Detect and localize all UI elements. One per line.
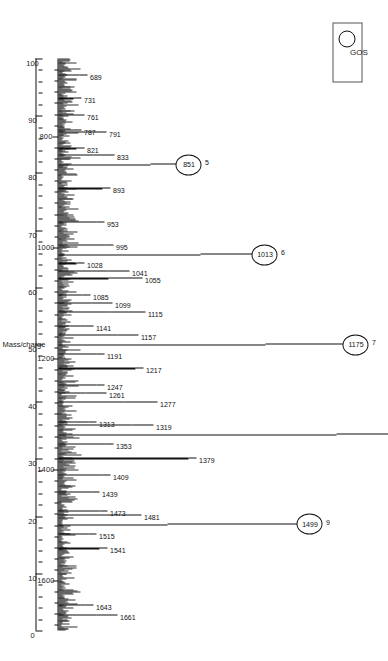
gos-mz-label: 1175 (343, 341, 369, 348)
spectrum-peak (58, 221, 97, 222)
annotation-leader-line (97, 614, 118, 615)
gos-dp-label: 9 (326, 518, 330, 525)
peak-label: 893 (113, 187, 125, 194)
rotated-plot-container: 8001000120014001600 Mass/charge 01020304… (0, 0, 388, 661)
spectrum-peak (58, 524, 168, 525)
circle-marker-icon (339, 30, 356, 47)
annotation-leader-line (88, 421, 96, 422)
spectrum-peak (58, 187, 102, 188)
peak-label: 1247 (107, 384, 123, 391)
annotation-leader-line (73, 97, 81, 98)
spectrum-peak (58, 147, 76, 148)
annotation-leader-line (132, 424, 153, 425)
peak-label: 1028 (86, 262, 102, 269)
annotation-leader-line (135, 367, 143, 368)
peak-label: 1141 (95, 325, 110, 332)
spectrum-peak (58, 302, 91, 303)
plot-area: 8001000120014001600 Mass/charge 01020304… (0, 0, 388, 661)
peak-label: 1115 (148, 310, 163, 317)
spectrum-peak (58, 392, 85, 393)
spectrum-peak (58, 457, 188, 458)
spectrum-peak (58, 421, 88, 422)
annotation-leader-line (99, 547, 107, 548)
annotation-leader-line (120, 514, 141, 515)
spectrum-peak (58, 131, 85, 132)
spectrum-peak (58, 401, 123, 402)
annotation-leader-line (102, 474, 110, 475)
annotation-leader-line (111, 311, 145, 312)
peak-label: 1515 (98, 532, 114, 539)
gos-leader-line (336, 433, 388, 434)
spectrum-peak (58, 491, 91, 492)
spectrum-peak (58, 294, 82, 295)
spectrum-peak (58, 474, 102, 475)
annotation-leader-line (85, 604, 93, 605)
spectrum-peak (58, 277, 108, 278)
spectrum-peak (58, 384, 97, 385)
spectrum-peak (58, 129, 73, 130)
spectrum-peak (58, 367, 135, 368)
spectrum-peak (58, 533, 88, 534)
annotation-leader-line (76, 262, 84, 263)
annotation-leader-line (79, 74, 87, 75)
legend-box: GOS (332, 22, 362, 82)
peak-label: 689 (89, 74, 101, 81)
peak-label: 1041 (132, 269, 148, 276)
spectrum-peak (58, 434, 336, 435)
spectrum-peak (58, 74, 79, 75)
spectrum-peak (58, 334, 117, 335)
peak-label: 1191 (107, 352, 122, 359)
peak-label: 821 (86, 147, 98, 154)
spectrum-peak (58, 325, 85, 326)
gos-mz-label: 1013 (252, 251, 278, 258)
peak-label: 995 (116, 244, 128, 251)
legend-label: GOS (350, 48, 368, 57)
annotation-leader-line (188, 457, 196, 458)
spectrum-peak (58, 114, 76, 115)
spectrum-peak (58, 270, 108, 271)
annotation-leader-line (97, 353, 105, 354)
gos-leader-line (168, 523, 310, 524)
peak-label: 1481 (144, 513, 160, 520)
peak-label: 731 (83, 97, 95, 104)
annotation-leader-line (94, 154, 115, 155)
spectrum-peak (58, 262, 76, 263)
peak-label: 1277 (160, 400, 176, 407)
annotation-leader-line (102, 187, 110, 188)
gos-mz-label: 851 (175, 161, 201, 168)
annotation-leader-line (85, 131, 106, 132)
peak-label: 1439 (101, 490, 117, 497)
annotation-leader-line (105, 443, 113, 444)
spectrum-peaks (0, 0, 388, 661)
peak-label: 1217 (146, 367, 162, 374)
gos-mz-label: 1499 (297, 520, 323, 527)
spectrum-peak (58, 344, 265, 345)
peak-label: 1261 (108, 391, 124, 398)
annotation-leader-line (108, 270, 129, 271)
mass-spectrum-figure: 8001000120014001600 Mass/charge 01020304… (0, 0, 388, 661)
gos-dp-label: 5 (204, 159, 208, 166)
peak-label: 953 (107, 220, 119, 227)
peak-label: 833 (117, 154, 129, 161)
annotation-leader-line (91, 491, 99, 492)
annotation-leader-line (85, 325, 93, 326)
spectrum-peak (58, 164, 150, 165)
peak-label: 791 (108, 130, 120, 137)
spectrum-peak (58, 604, 85, 605)
spectrum-peak (58, 311, 111, 312)
annotation-leader-line (88, 533, 96, 534)
peak-label: 761 (86, 114, 98, 121)
annotation-leader-line (97, 221, 105, 222)
gos-leader-line (265, 343, 355, 344)
noise-peak (58, 629, 65, 630)
spectrum-peak (58, 424, 132, 425)
annotation-leader-line (82, 294, 90, 295)
annotation-leader-line (76, 147, 84, 148)
annotation-leader-line (91, 302, 112, 303)
peak-label: 1099 (114, 301, 130, 308)
annotation-leader-line (97, 384, 105, 385)
gos-dp-label: 6 (281, 248, 285, 255)
spectrum-peak (58, 353, 97, 354)
peak-label: 1541 (110, 547, 126, 554)
gos-dp-label: 7 (372, 338, 376, 345)
